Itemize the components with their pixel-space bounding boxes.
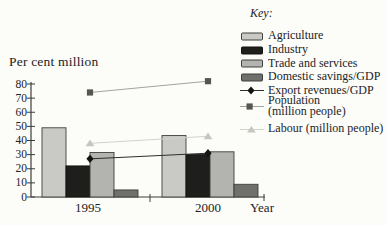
y-tick-label: 70 [0,92,27,105]
legend-label: Population(million people) [268,95,346,118]
scanned-chart-figure: Per cent million 01020304050607080 1995 … [0,0,386,225]
y-tick-label: 10 [0,176,27,189]
legend-item-population-million-people-: Population(million people) [240,95,346,118]
y-tick-label: 80 [0,78,27,91]
legend-label: Industry [268,44,308,56]
bar-agriculture-2000 [162,136,186,197]
y-tick-label: 60 [0,106,27,119]
legend-label-line: (million people) [268,106,346,118]
legend-swatch-agriculture [240,29,266,44]
bar-agriculture-1995 [42,128,66,197]
x-tick-label-1995: 1995 [66,200,110,216]
y-tick-label: 0 [0,191,27,204]
legend-title: Key: [250,6,273,21]
bar-domestic-savings-gdp-1995 [114,190,138,197]
legend-label-line: Domestic savings/GDP [268,71,380,83]
line-labour-million-people- [90,136,208,143]
y-tick-label: 20 [0,162,27,175]
legend-square-marker-icon [240,99,266,114]
y-tick-label: 50 [0,120,27,133]
legend-label-line: Labour (million people) [268,123,383,135]
population-square-marker [205,78,211,84]
legend-label: Trade and services [268,58,358,70]
bar-industry-2000 [186,155,210,197]
y-tick-label: 30 [0,148,27,161]
legend-label: Labour (million people) [268,123,383,135]
y-tick-label: 40 [0,134,27,147]
legend-label: Domestic savings/GDP [268,71,380,83]
population-square-marker [87,89,93,95]
legend-item-agriculture: Agriculture [240,29,323,44]
legend-label: Agriculture [268,30,323,42]
legend-label-line: Agriculture [268,30,323,42]
bar-trade-and-services-2000 [210,152,234,197]
legend-label-line: Industry [268,44,308,56]
line-population-million-people- [90,81,208,92]
legend-item-labour-million-people-: Labour (million people) [240,122,383,137]
legend-label-line: Trade and services [268,58,358,70]
legend-triangle-marker-icon [240,122,266,137]
bar-domestic-savings-gdp-2000 [234,184,258,197]
x-tick-label-2000: 2000 [186,200,230,216]
labour-triangle-marker [204,132,213,139]
bar-industry-1995 [66,166,90,197]
x-axis-title: Year [250,200,274,216]
